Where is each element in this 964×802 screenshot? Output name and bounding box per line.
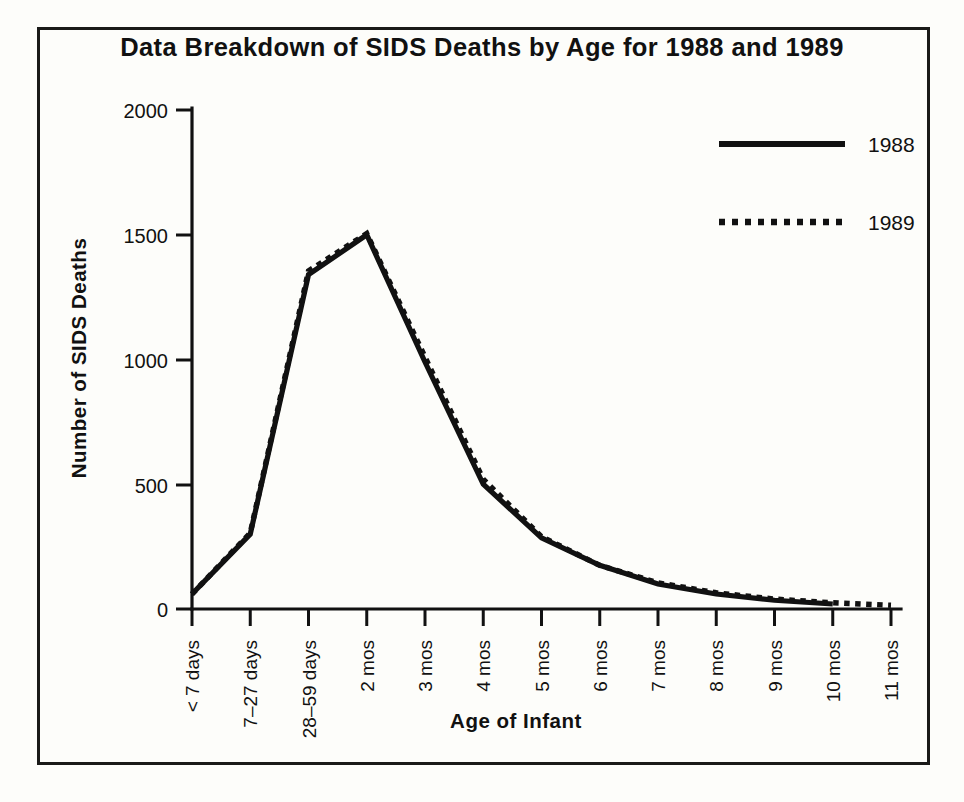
x-tick-label: 3 mos [415, 640, 436, 692]
x-tick-label: 11 mos [881, 640, 902, 701]
chart-plot-area: 2000 1500 1000 500 0 Number of SIDS Deat… [0, 0, 964, 802]
x-tick-label: 10 mos [823, 640, 844, 702]
data-series-1988 [192, 235, 833, 604]
x-tick-label: 2 mos [357, 640, 378, 692]
y-tick-label: 2000 [124, 100, 169, 122]
legend-label-1989: 1989 [868, 211, 915, 234]
x-tick-label: 28–59 days [299, 640, 320, 738]
x-axis-ticks [192, 609, 891, 626]
x-tick-label: < 7 days [182, 640, 203, 712]
x-tick-label: 8 mos [706, 640, 727, 692]
y-tick-label: 500 [135, 475, 168, 497]
x-tick-label: 9 mos [765, 640, 786, 692]
y-axis-tick-labels: 2000 1500 1000 500 0 [124, 100, 169, 621]
x-axis-title: Age of Infant [450, 709, 582, 732]
legend-label-1988: 1988 [868, 133, 915, 156]
x-tick-label: 7 mos [648, 640, 669, 692]
y-axis-ticks [176, 110, 192, 609]
x-tick-label: 5 mos [532, 640, 553, 692]
chart-legend: 1988 1989 [719, 133, 915, 234]
y-tick-label: 1500 [124, 225, 169, 247]
x-tick-label: 7–27 days [240, 640, 261, 728]
y-tick-label: 1000 [124, 350, 169, 372]
y-tick-label: 0 [157, 599, 168, 621]
y-axis-title: Number of SIDS Deaths [67, 238, 90, 479]
data-series-1989 [192, 234, 891, 606]
x-tick-label: 6 mos [590, 640, 611, 692]
x-tick-label: 4 mos [473, 640, 494, 692]
figure-canvas: Data Breakdown of SIDS Deaths by Age for… [0, 0, 964, 802]
